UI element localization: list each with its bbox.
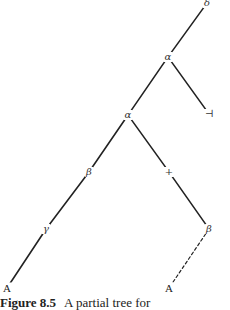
tree-edge-n6-n8	[10, 234, 42, 283]
tree-edge-n5-n7	[172, 177, 205, 224]
tree-node-n3: α	[124, 110, 133, 120]
tree-edge-n4-n6	[50, 177, 86, 224]
figure-caption: Figure 8.5A partial tree for	[0, 296, 150, 309]
tree-edge-n0-n1	[172, 8, 204, 52]
tree-node-n0: δ	[203, 0, 211, 8]
figure-number: Figure 8.5	[0, 295, 56, 310]
tree-node-n7: β	[205, 224, 213, 234]
tree-node-n6: γ	[42, 224, 50, 234]
tree-node-n4: β	[85, 167, 93, 177]
tree-node-n9: A	[164, 283, 174, 294]
tree-edge-n1-n2	[172, 62, 206, 109]
tree-edge-n1-n3	[131, 62, 164, 110]
tree-edge-n3-n4	[92, 120, 124, 167]
tree-edge-n7-n9	[172, 234, 205, 283]
figure-caption-text: A partial tree for	[64, 295, 150, 310]
tree-node-n5: +	[164, 167, 174, 177]
tree-edge-n3-n5	[132, 120, 166, 167]
tree-node-n1: α	[164, 52, 173, 62]
tree-node-n2: ⊣	[204, 109, 215, 119]
tree-node-n8: A	[2, 283, 12, 294]
